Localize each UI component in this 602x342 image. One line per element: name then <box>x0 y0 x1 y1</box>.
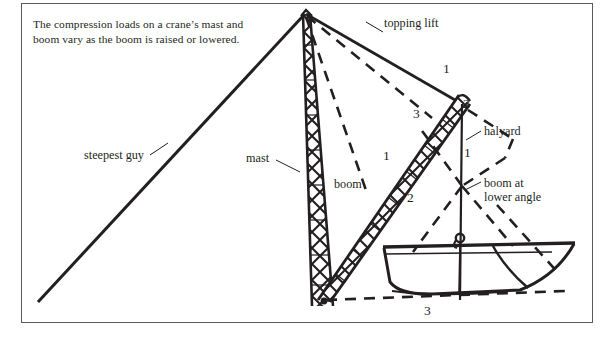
force-number-boom-lower: 2 <box>407 190 414 206</box>
boat-hull <box>383 243 575 294</box>
hull-sheer-line <box>384 252 552 254</box>
topping-lift-leader <box>366 22 383 32</box>
force-number-hull-lower: 3 <box>424 303 431 319</box>
crane-diagram <box>0 0 602 342</box>
hull-mast-step <box>459 243 460 292</box>
label-boom-at-lower-angle-line2: lower angle <box>484 190 541 204</box>
caption-line-2: boom vary as the boom is raised or lower… <box>33 32 295 47</box>
lower-angle-dashed-group <box>306 16 565 300</box>
label-halyard: halyard <box>484 124 521 138</box>
topping-lift-lower-a <box>307 16 432 118</box>
force-number-topping-lift-lower: 3 <box>413 106 420 122</box>
lower-halyard-b <box>505 139 513 158</box>
label-steepest-guy: steepest guy <box>84 148 144 162</box>
force-number-topping-lift-upper: 1 <box>443 61 450 77</box>
halyard-line <box>460 104 462 300</box>
label-boom: boom <box>334 177 362 191</box>
force-number-boom-upper: 1 <box>383 148 390 164</box>
figure-page: The compression loads on a crane’s mast … <box>0 0 602 342</box>
mast-leader <box>276 160 300 172</box>
boom-lattice-fill <box>318 95 470 302</box>
steepest-guy-leader <box>150 143 168 155</box>
force-number-boom-tip-upper: 2 <box>463 96 470 112</box>
mast-structure <box>301 10 333 306</box>
caption-line-1: The compression loads on a crane’s mast … <box>33 17 295 32</box>
label-mast: mast <box>246 151 269 165</box>
label-boom-at-lower-angle-line1: boom at <box>484 176 541 190</box>
label-topping-lift: topping lift <box>384 16 439 30</box>
label-boom-at-lower-angle: boom at lower angle <box>484 176 541 204</box>
force-number-halyard-lower: 1 <box>464 145 471 161</box>
halyard-leader <box>466 131 481 140</box>
hull-deck-line <box>383 243 575 247</box>
figure-caption: The compression loads on a crane’s mast … <box>33 17 295 46</box>
boom-structure <box>318 95 470 304</box>
